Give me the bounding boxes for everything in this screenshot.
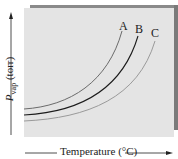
x-axis-arrow-icon — [166, 151, 173, 155]
curve-label-c: C — [151, 26, 159, 40]
y-axis-arrow-icon — [9, 12, 13, 19]
curve-label-b: B — [135, 22, 143, 36]
chart-svg: A B C — [0, 0, 178, 159]
y-axis-label-symbol: P — [3, 94, 15, 101]
y-axis-label-unit: (torr) — [3, 57, 15, 83]
y-axis-label-subscript: vap — [9, 83, 18, 95]
y-axis-label: Pvap (torr) — [3, 19, 17, 139]
x-axis-label: Temperature (°C) — [60, 145, 137, 157]
curve-b — [24, 36, 138, 115]
curve-c — [24, 41, 155, 121]
curve-label-a: A — [119, 19, 128, 33]
curve-a — [24, 31, 122, 109]
